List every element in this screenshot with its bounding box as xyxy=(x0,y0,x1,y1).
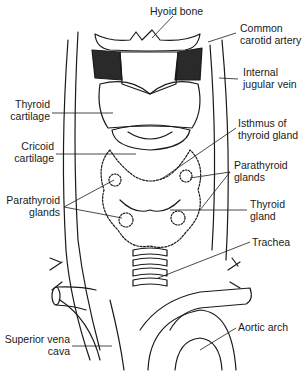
label-line: Thyroid xyxy=(250,198,285,210)
label-aortic-arch: Aortic arch xyxy=(238,321,288,333)
label-line: Isthmus of xyxy=(238,117,298,129)
label-line: glands xyxy=(2,206,60,218)
label-thyroid-cartilage: Thyroid cartilage xyxy=(4,98,50,122)
label-common-carotid-artery: Common carotid artery xyxy=(240,22,301,46)
label-line: Parathyroid xyxy=(2,194,60,206)
label-line: Hyoid bone xyxy=(150,5,203,17)
label-isthmus-of-thyroid-gland: Isthmus of thyroid gland xyxy=(238,117,298,141)
label-hyoid-bone: Hyoid bone xyxy=(150,5,203,17)
label-line: Internal xyxy=(243,66,297,78)
label-line: cava xyxy=(4,345,70,357)
label-line: glands xyxy=(234,171,288,183)
label-line: Trachea xyxy=(252,236,290,248)
label-line: carotid artery xyxy=(240,34,301,46)
label-parathyroid-glands-right: Parathyroid glands xyxy=(2,194,60,218)
label-line: Parathyroid xyxy=(234,159,288,171)
label-line: cartilage xyxy=(4,152,54,164)
label-line: Cricoid xyxy=(4,140,54,152)
label-line: Superior vena xyxy=(4,333,70,345)
label-line: gland xyxy=(250,210,285,222)
label-parathyroid-glands-left: Parathyroid glands xyxy=(234,159,288,183)
label-thyroid-gland: Thyroid gland xyxy=(250,198,285,222)
label-internal-jugular-vein: Internal jugular vein xyxy=(243,66,297,90)
label-trachea: Trachea xyxy=(252,236,290,248)
anatomy-diagram: Hyoid bone Common carotid artery Interna… xyxy=(0,0,306,378)
label-line: thyroid gland xyxy=(238,129,298,141)
label-line: Thyroid xyxy=(4,98,50,110)
label-line: jugular vein xyxy=(243,78,297,90)
label-superior-vena-cava: Superior vena cava xyxy=(4,333,70,357)
label-line: cartilage xyxy=(4,110,50,122)
label-line: Common xyxy=(240,22,301,34)
label-cricoid-cartilage: Cricoid cartilage xyxy=(4,140,54,164)
label-line: Aortic arch xyxy=(238,321,288,333)
